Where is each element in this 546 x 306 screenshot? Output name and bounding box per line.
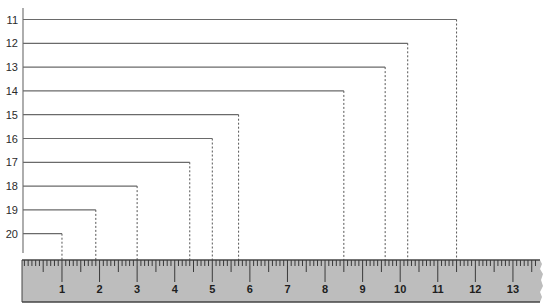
- ruler-number-label: 13: [507, 283, 519, 295]
- ruler-number-label: 5: [209, 283, 215, 295]
- measurement-row: 12: [6, 37, 408, 260]
- row-label: 18: [6, 180, 18, 192]
- row-label: 16: [6, 133, 18, 145]
- row-label: 14: [6, 85, 18, 97]
- row-label: 12: [6, 37, 18, 49]
- ruler-number-label: 1: [59, 283, 65, 295]
- measurement-row: 20: [6, 228, 62, 260]
- ruler-number-label: 9: [360, 283, 366, 295]
- ruler-body: [22, 260, 543, 302]
- ruler-number-label: 12: [469, 283, 481, 295]
- ruler: 12345678910111213: [22, 260, 543, 302]
- ruler-number-label: 8: [322, 283, 328, 295]
- measurement-row: 16: [6, 133, 213, 261]
- row-label: 13: [6, 61, 18, 73]
- row-label: 11: [7, 14, 18, 26]
- measurement-row: 15: [6, 109, 239, 260]
- ruler-number-label: 7: [284, 283, 290, 295]
- ruler-number-label: 3: [134, 283, 140, 295]
- ruler-number-label: 10: [394, 283, 406, 295]
- row-label: 15: [6, 109, 18, 121]
- measurement-row: 18: [6, 180, 137, 260]
- measurement-row: 11: [7, 14, 457, 261]
- measurement-row: 19: [6, 204, 96, 260]
- row-label: 17: [6, 156, 18, 168]
- ruler-number-label: 11: [432, 283, 444, 295]
- diagram-canvas: 11121314151617181920 12345678910111213: [0, 0, 546, 306]
- ruler-number-label: 6: [247, 283, 253, 295]
- row-label: 20: [6, 228, 18, 240]
- measurement-rows: 11121314151617181920: [6, 8, 457, 260]
- ruler-number-label: 4: [172, 283, 179, 295]
- ruler-number-label: 2: [96, 283, 102, 295]
- measurement-diagram: 11121314151617181920 12345678910111213: [0, 0, 546, 306]
- row-label: 19: [6, 204, 18, 216]
- measurement-row: 17: [6, 156, 190, 260]
